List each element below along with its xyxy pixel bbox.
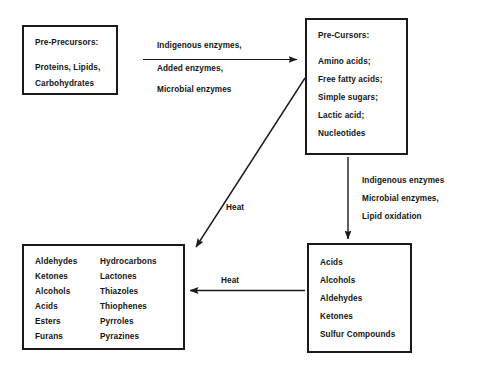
volatiles-right-1: Lactones — [100, 272, 137, 281]
volatiles-left-2: Alcohols — [35, 287, 70, 296]
label-right-arrow-line-1: Microbial enzymes, — [362, 194, 439, 203]
diagram-canvas: Pre-Precursors: Proteins, Lipids, Carboh… — [0, 0, 477, 376]
volatiles-right-3: Thiophenes — [100, 302, 147, 311]
precursors-item-2: Simple sugars; — [318, 93, 378, 102]
precursors-item-3: Lactic acid; — [318, 111, 364, 120]
volatiles-right-2: Thiazoles — [100, 287, 138, 296]
label-right-arrow-line-0: Indigenous enzymes — [362, 176, 444, 185]
box-precursors: Pre-Cursors: Amino acids; Free fatty aci… — [305, 18, 408, 155]
volatiles-right-0: Hydrocarbons — [100, 257, 157, 266]
label-right-arrow-line-2: Lipid oxidation — [362, 212, 422, 221]
volatiles-left-4: Esters — [35, 317, 61, 326]
volatiles-right-4: Pyrroles — [100, 317, 134, 326]
pre-precursors-item-0: Proteins, Lipids, — [35, 63, 100, 72]
products-item-1: Alcohols — [320, 276, 355, 285]
precursors-item-1: Free fatty acids; — [318, 75, 383, 84]
pre-precursors-item-1: Carbohydrates — [35, 79, 94, 88]
products-item-3: Ketones — [320, 312, 353, 321]
box-products: Acids Alcohols Aldehydes Ketones Sulfur … — [307, 243, 412, 353]
products-item-0: Acids — [320, 258, 343, 267]
precursors-heading: Pre-Cursors: — [318, 31, 369, 40]
label-heat-diagonal: Heat — [226, 203, 244, 212]
label-top-arrow-line-2: Microbial enzymes — [157, 85, 232, 94]
precursors-item-0: Amino acids; — [318, 57, 371, 66]
volatiles-left-5: Furans — [35, 332, 63, 341]
box-pre-precursors: Pre-Precursors: Proteins, Lipids, Carboh… — [22, 25, 118, 95]
pre-precursors-heading: Pre-Precursors: — [35, 38, 98, 47]
volatiles-left-0: Aldehydes — [35, 257, 77, 266]
products-item-2: Aldehydes — [320, 294, 362, 303]
volatiles-left-1: Ketones — [35, 272, 68, 281]
label-heat-horizontal: Heat — [221, 276, 239, 285]
arrow-heat-diagonal — [196, 78, 305, 247]
volatiles-right-5: Pyrazines — [100, 332, 139, 341]
products-item-4: Sulfur Compounds — [320, 330, 395, 339]
label-top-arrow-line-1: Added enzymes, — [157, 64, 223, 73]
box-volatiles: Aldehydes Ketones Alcohols Acids Esters … — [22, 244, 185, 350]
precursors-item-4: Nucleotides — [318, 129, 366, 138]
label-top-arrow-line-0: Indigenous enzymes, — [157, 41, 242, 50]
volatiles-left-3: Acids — [35, 302, 58, 311]
